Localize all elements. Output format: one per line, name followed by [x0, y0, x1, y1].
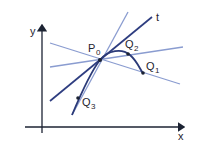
y-axis-label: y: [30, 25, 36, 37]
label-q3: Q 3: [82, 96, 96, 111]
tangent-label: t: [156, 11, 159, 23]
point-q3: [76, 96, 80, 100]
svg-text:1: 1: [155, 66, 160, 75]
label-q2: Q 2: [125, 38, 139, 53]
point-p0: [98, 58, 102, 62]
svg-text:P: P: [88, 42, 95, 54]
point-q2: [126, 52, 130, 56]
svg-text:Q: Q: [82, 96, 91, 108]
point-q1: [141, 71, 145, 75]
svg-text:0: 0: [96, 48, 101, 57]
svg-text:2: 2: [134, 44, 139, 53]
x-axis-label: x: [178, 130, 184, 142]
svg-text:Q: Q: [146, 60, 155, 72]
svg-text:3: 3: [91, 102, 96, 111]
tangent-diagram: y x t P 0 Q 2 Q 1 Q 3: [0, 0, 197, 149]
diagram-canvas: y x t P 0 Q 2 Q 1 Q 3: [0, 0, 197, 149]
secant-line-q3: [72, 12, 128, 115]
label-q1: Q 1: [146, 60, 160, 75]
label-p0: P 0: [88, 42, 101, 57]
svg-text:Q: Q: [125, 38, 134, 50]
